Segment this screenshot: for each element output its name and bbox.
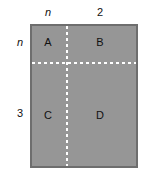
dimension-label-top-left: n xyxy=(40,7,56,18)
horizontal-dashed-divider xyxy=(32,62,136,64)
region-label-a: A xyxy=(41,37,55,48)
region-label-b: B xyxy=(93,37,107,48)
region-label-c: C xyxy=(41,110,55,121)
dimension-label-left-bottom: 3 xyxy=(12,108,28,119)
dimension-label-top-right: 2 xyxy=(92,7,108,18)
dimension-label-left-top: n xyxy=(12,37,28,48)
area-model-diagram: n 2 n 3 A B C D xyxy=(0,0,143,173)
vertical-dashed-divider xyxy=(66,26,68,166)
region-label-d: D xyxy=(93,110,107,121)
